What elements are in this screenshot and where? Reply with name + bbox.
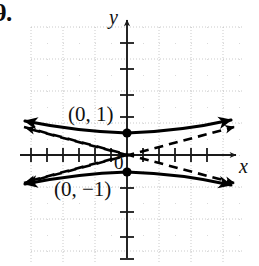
origin-label: 0 xyxy=(114,152,124,174)
vertex-upper-label: (0, 1) xyxy=(68,102,114,127)
vertex-lower-label: (0, −1) xyxy=(54,177,111,202)
y-axis-label: y xyxy=(109,6,118,29)
hyperbola-graph xyxy=(0,0,259,266)
x-axis-label: x xyxy=(239,155,248,178)
vertex-lower-dot xyxy=(122,167,131,176)
figure-page: 9. xyxy=(0,0,259,266)
vertex-upper-dot xyxy=(122,128,131,137)
